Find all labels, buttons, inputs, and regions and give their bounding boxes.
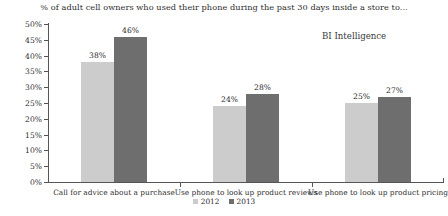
legend-swatch-icon — [193, 199, 198, 204]
bar-value-label: 27% — [386, 86, 403, 95]
y-axis-tick-label: 5% — [0, 162, 42, 171]
bar-value-label: 24% — [221, 95, 238, 104]
y-axis-tick — [44, 135, 48, 136]
bar-value-label: 46% — [122, 26, 139, 35]
y-axis-tick-label: 20% — [0, 114, 42, 123]
x-axis-separator-tick — [312, 182, 313, 187]
y-axis-tick — [44, 150, 48, 151]
y-axis-line — [48, 23, 49, 183]
legend-item-2012[interactable]: 2012 — [193, 197, 220, 206]
brand-label: BI Intelligence — [322, 31, 386, 41]
y-axis-tick — [44, 119, 48, 120]
y-axis-tick — [44, 182, 48, 183]
bar-value-label: 25% — [353, 92, 370, 101]
y-axis-tick-label: 40% — [0, 51, 42, 60]
y-axis-tick-label: 10% — [0, 146, 42, 155]
bar-value-label: 28% — [254, 83, 271, 92]
y-axis-tick — [44, 56, 48, 57]
y-axis-tick-label: 45% — [0, 35, 42, 44]
legend-swatch-icon — [229, 199, 234, 204]
y-axis-labels: 50%45%40%35%30%25%20%15%10%5%0% — [0, 0, 42, 216]
bar-value-label: 38% — [89, 51, 106, 60]
category-label: Call for advice about a purchase — [53, 188, 175, 197]
bar-2012-3[interactable] — [345, 103, 378, 182]
y-axis-tick — [44, 40, 48, 41]
bar-2013-1[interactable] — [114, 37, 147, 182]
legend-item-label: 2012 — [201, 197, 220, 206]
y-axis-tick-label: 35% — [0, 67, 42, 76]
bar-2013-3[interactable] — [378, 97, 411, 182]
y-axis-tick — [44, 166, 48, 167]
legend-item-2013[interactable]: 2013 — [229, 197, 256, 206]
y-axis-tick-label: 30% — [0, 83, 42, 92]
bar-2012-2[interactable] — [213, 106, 246, 182]
bar-chart: % of adult cell owners who used their ph… — [0, 0, 448, 216]
legend-item-label: 2013 — [237, 197, 256, 206]
y-axis-tick-label: 50% — [0, 20, 42, 29]
y-axis-tick — [44, 24, 48, 25]
chart-title: % of adult cell owners who used their ph… — [0, 2, 448, 12]
bar-2013-2[interactable] — [246, 94, 279, 182]
y-axis-tick-label: 0% — [0, 178, 42, 187]
category-label: Use phone to look up product reviews — [175, 188, 317, 197]
y-axis-tick-label: 15% — [0, 130, 42, 139]
bar-2012-1[interactable] — [81, 62, 114, 182]
y-axis-tick — [44, 103, 48, 104]
chart-legend: 20122013 — [0, 197, 448, 206]
category-label: Use phone to look up product pricing — [308, 188, 448, 197]
x-axis-end-tick — [443, 178, 444, 183]
x-axis-separator-tick — [180, 182, 181, 187]
y-axis-tick — [44, 87, 48, 88]
x-axis-line — [48, 182, 444, 183]
y-axis-tick-label: 25% — [0, 99, 42, 108]
y-axis-tick — [44, 71, 48, 72]
